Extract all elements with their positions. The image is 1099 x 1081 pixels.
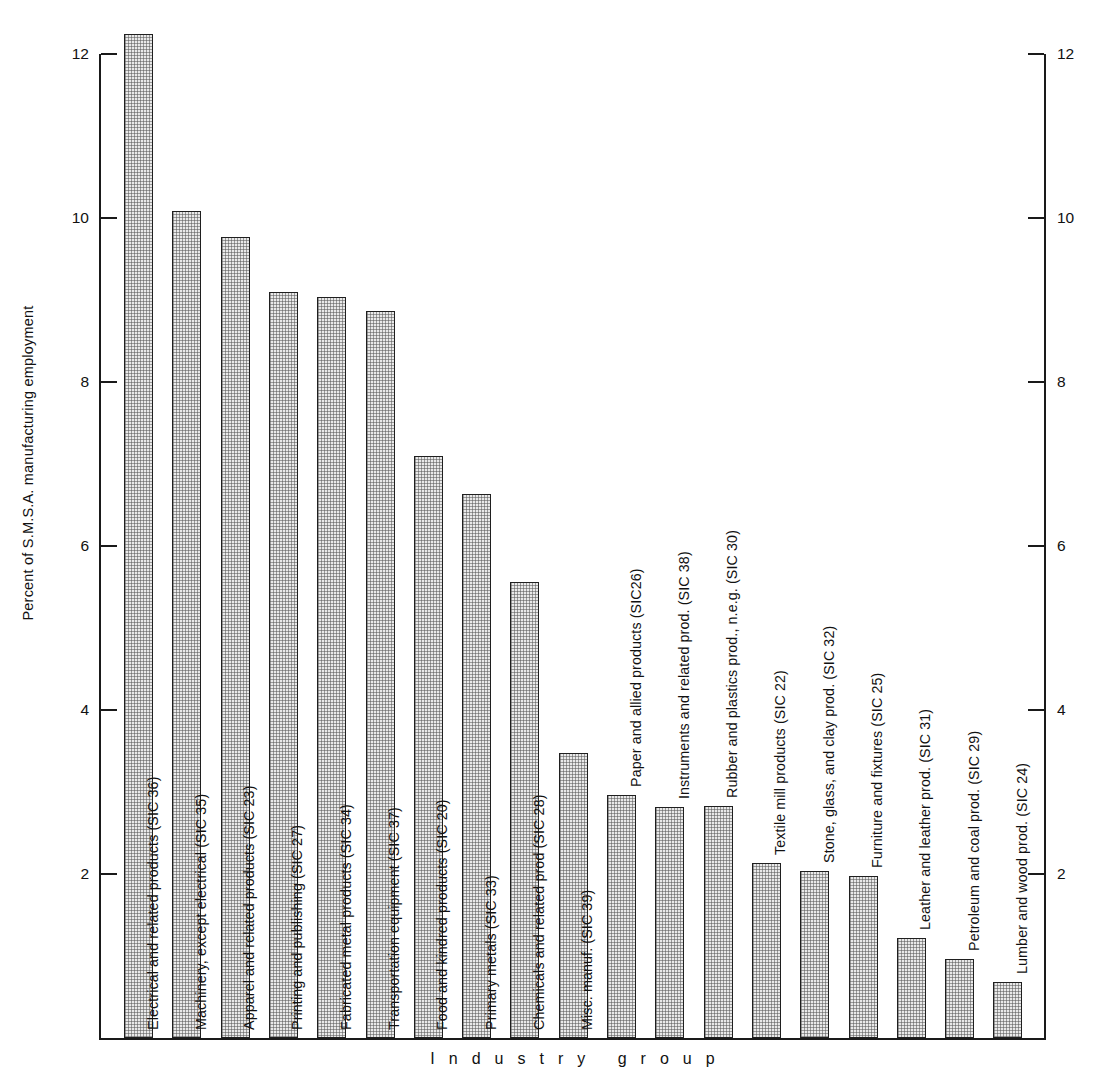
bar[interactable] [704, 806, 733, 1038]
bar-label: Paper and allied products (SIC26) [629, 569, 643, 788]
bar-chart: Percent of S.M.S.A. manufacturing employ… [0, 0, 1099, 1081]
bar-label: Petroleum and coal prod. (SIC 29) [967, 731, 981, 951]
bar-label: Lumber and wood prod. (SIC 24) [1015, 763, 1029, 974]
bar[interactable] [269, 292, 298, 1038]
bar-label: Stone, glass, and clay prod. (SIC 32) [822, 625, 836, 862]
bar[interactable] [559, 753, 588, 1038]
bar[interactable] [752, 863, 781, 1038]
bar[interactable] [414, 456, 443, 1038]
bar[interactable] [993, 982, 1022, 1038]
bar[interactable] [317, 297, 346, 1038]
bar[interactable] [849, 876, 878, 1038]
x-axis-title: Industry group [99, 1050, 1046, 1068]
bar-label: Furniture and fixtures (SIC 25) [870, 672, 884, 867]
bars-layer: Electrical and related products (SIC 36)… [0, 0, 1099, 1081]
bar[interactable] [655, 807, 684, 1038]
bar-label: Rubber and plastics prod., n.e.g. (SIC 3… [725, 530, 739, 798]
bar-label: Leather and leather prod. (SIC 31) [918, 709, 932, 930]
bar[interactable] [945, 959, 974, 1038]
bar-label: Textile mill products (SIC 22) [773, 670, 787, 855]
bar[interactable] [172, 211, 201, 1038]
bar[interactable] [897, 938, 926, 1038]
bar[interactable] [462, 494, 491, 1038]
bar[interactable] [607, 795, 636, 1038]
bar[interactable] [800, 871, 829, 1038]
bar[interactable] [366, 311, 395, 1038]
bar-label: Instruments and related prod. (SIC 38) [677, 551, 691, 799]
bar[interactable] [510, 582, 539, 1038]
bar[interactable] [124, 34, 153, 1039]
bar[interactable] [221, 237, 250, 1038]
